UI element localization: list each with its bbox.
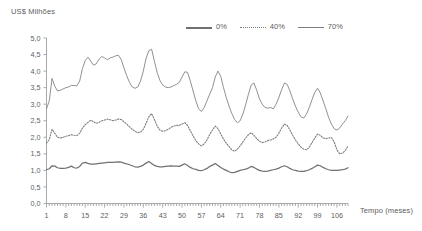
x-tick-label: 15 <box>81 211 89 220</box>
x-tick-label: 57 <box>197 211 205 220</box>
y-tick-label: 5,0 <box>31 34 41 43</box>
y-axis: 0,00,51,01,52,02,53,03,54,04,55,0 <box>31 34 47 209</box>
y-tick-label: 4,0 <box>31 67 41 76</box>
y-tick-label: 4,5 <box>31 50 41 59</box>
y-tick-label: 0,0 <box>31 199 41 208</box>
series-line-40pct <box>47 113 349 153</box>
y-tick-label: 1,0 <box>31 166 41 175</box>
x-tick-label: 78 <box>255 211 263 220</box>
data-series-group <box>47 49 349 172</box>
y-tick-label: 3,0 <box>31 100 41 109</box>
series-line-70pct <box>47 49 349 130</box>
x-tick-label: 85 <box>275 211 283 220</box>
x-tick-label: 36 <box>139 211 147 220</box>
x-axis-tick-labels: 1815222936435057647178859299106 <box>45 211 343 220</box>
x-axis-title: Tempo (meses) <box>360 206 413 215</box>
x-tick-label: 8 <box>64 211 68 220</box>
y-tick-label: 2,5 <box>31 116 41 125</box>
chart-container: US$ Milhões 0% 40% 70% 0,00,51,01,52,02,… <box>0 0 422 231</box>
x-tick-label: 43 <box>159 211 167 220</box>
x-tick-label: 99 <box>314 211 322 220</box>
x-tick-label: 92 <box>294 211 302 220</box>
x-tick-label: 64 <box>217 211 225 220</box>
x-tick-label: 50 <box>178 211 186 220</box>
y-tick-label: 3,5 <box>31 83 41 92</box>
y-tick-label: 2,0 <box>31 133 41 142</box>
x-tick-label: 71 <box>236 211 244 220</box>
x-tick-label: 29 <box>120 211 128 220</box>
x-axis: 1815222936435057647178859299106 <box>45 204 349 220</box>
y-tick-label: 1,5 <box>31 149 41 158</box>
x-tick-label: 106 <box>331 211 343 220</box>
x-axis-ticks <box>47 204 349 208</box>
x-tick-label: 22 <box>101 211 109 220</box>
y-axis-tick-labels: 0,00,51,01,52,02,53,03,54,04,55,0 <box>31 34 41 209</box>
plot-area: 0,00,51,01,52,02,53,03,54,04,55,0 181522… <box>0 0 422 231</box>
x-tick-label: 1 <box>45 211 49 220</box>
series-line-0pct <box>47 161 349 172</box>
y-tick-label: 0,5 <box>31 183 41 192</box>
